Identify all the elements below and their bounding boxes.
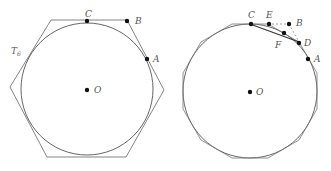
point-d xyxy=(297,41,301,45)
point-b xyxy=(125,19,129,23)
label-b: B xyxy=(134,16,142,26)
point-b-2 xyxy=(287,22,291,26)
label-a-2: A xyxy=(313,54,321,64)
point-f xyxy=(282,31,286,35)
diagram-canvas: C B A O T6 C E B F D A O xyxy=(0,0,331,171)
left-figure: C B A O T6 xyxy=(10,9,164,157)
point-e xyxy=(267,22,271,26)
label-t6: T6 xyxy=(11,46,21,57)
right-figure: C E B F D A O xyxy=(183,10,321,158)
label-o: O xyxy=(94,85,102,95)
label-c-2: C xyxy=(248,10,255,20)
label-e: E xyxy=(265,10,273,20)
point-c xyxy=(85,19,89,23)
label-b-2: B xyxy=(295,18,303,28)
point-a-2 xyxy=(306,57,310,61)
point-c-2 xyxy=(249,22,253,26)
point-o-2 xyxy=(248,90,252,94)
label-d: D xyxy=(303,38,311,48)
label-c: C xyxy=(85,9,92,19)
label-a: A xyxy=(152,54,160,64)
label-f: F xyxy=(274,40,282,50)
label-o-2: O xyxy=(256,87,264,97)
point-a xyxy=(145,57,149,61)
point-o xyxy=(85,88,89,92)
